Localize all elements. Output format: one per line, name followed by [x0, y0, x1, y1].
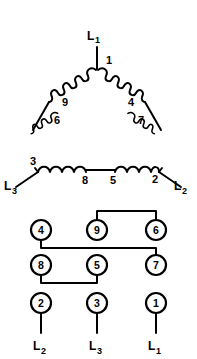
jumper-9-to-6[interactable]: [97, 211, 156, 220]
terminal-number-3: 3: [94, 297, 100, 309]
segment-left-middle: [33, 102, 49, 130]
coil-left-upper: [49, 68, 96, 102]
terminal-number-7: 7: [153, 259, 159, 271]
terminal-label-L2-sub: 2: [41, 346, 46, 356]
coil-right-upper: [98, 68, 145, 102]
lead-line-L3: [16, 172, 38, 187]
terminal-label-L1-main: L: [148, 339, 155, 353]
terminal-4[interactable]: 4: [31, 220, 51, 240]
delta-label-L1-sub: 1: [95, 35, 100, 45]
terminal-label-L1-sub: 1: [156, 346, 161, 356]
terminal-9[interactable]: 9: [87, 220, 107, 240]
jumper-8-to-5[interactable]: [41, 275, 97, 283]
delta-label-L2-sub: 2: [182, 186, 187, 196]
motor-winding-diagram: L 1 1 9 6 3 4 7 2 8 5 L 3 L: [0, 0, 197, 359]
delta-winding-number-3: 3: [30, 155, 36, 167]
terminal-label-L3-main: L: [89, 339, 96, 353]
coil-bottom-left: [38, 167, 86, 172]
delta-winding-number-2: 2: [152, 173, 158, 185]
delta-winding-number-8: 8: [82, 174, 88, 186]
terminal-board-group: 4 9 6 8 5 7: [31, 211, 166, 356]
terminal-2[interactable]: 2: [31, 293, 51, 313]
terminal-number-5: 5: [94, 259, 100, 271]
delta-label-L3-sub: 3: [12, 186, 17, 196]
terminal-label-L2-main: L: [33, 339, 40, 353]
delta-winding-number-9: 9: [62, 96, 68, 108]
terminal-number-8: 8: [38, 259, 44, 271]
delta-winding-number-5: 5: [110, 174, 116, 186]
jumper-4-to-7[interactable]: [41, 240, 156, 255]
delta-label-L3-main: L: [4, 179, 11, 193]
terminal-label-L3-sub: 3: [97, 346, 102, 356]
terminal-number-2: 2: [38, 297, 44, 309]
delta-label-L1-main: L: [87, 29, 94, 43]
delta-label-L2-main: L: [174, 179, 181, 193]
terminal-number-9: 9: [94, 224, 100, 236]
delta-winding-number-1: 1: [106, 54, 112, 66]
delta-winding-group: L 1 1 9 6 3 4 7 2 8 5 L 3 L: [4, 29, 187, 196]
delta-winding-number-4: 4: [128, 96, 135, 108]
terminal-number-6: 6: [153, 224, 159, 236]
terminal-1[interactable]: 1: [146, 293, 166, 313]
terminal-number-4: 4: [38, 224, 44, 236]
terminal-5[interactable]: 5: [87, 255, 107, 275]
terminal-6[interactable]: 6: [146, 220, 166, 240]
diagram-canvas: L 1 1 9 6 3 4 7 2 8 5 L 3 L: [0, 0, 197, 359]
terminal-7[interactable]: 7: [146, 255, 166, 275]
delta-winding-number-7: 7: [138, 114, 144, 126]
terminal-number-1: 1: [153, 297, 159, 309]
delta-winding-number-6: 6: [54, 114, 60, 126]
terminal-8[interactable]: 8: [31, 255, 51, 275]
terminal-3[interactable]: 3: [87, 293, 107, 313]
coil-bottom-right: [115, 167, 159, 172]
